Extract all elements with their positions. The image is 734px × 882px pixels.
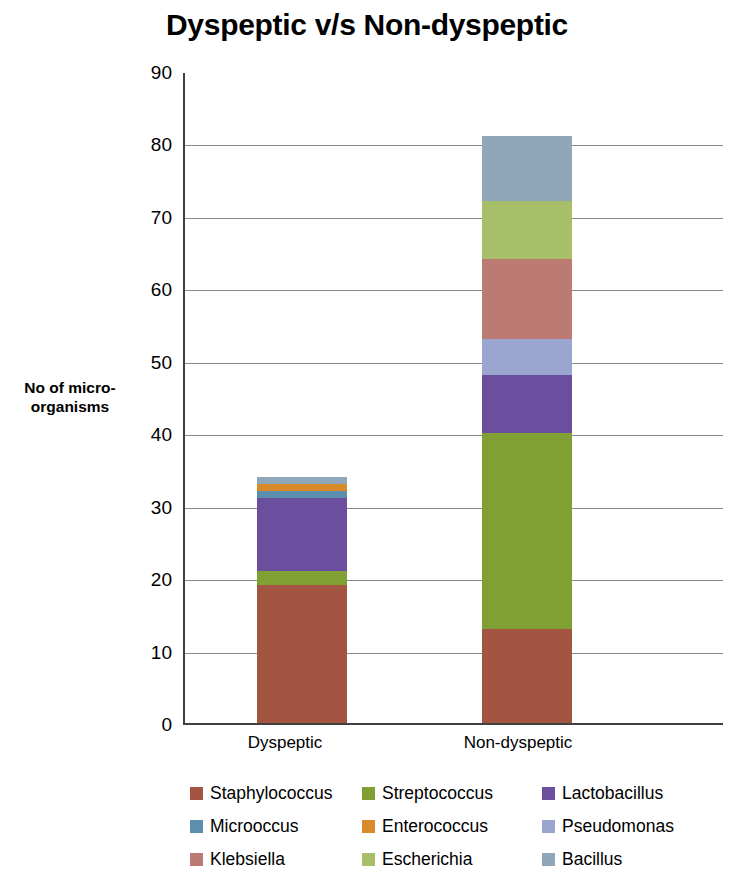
y-axis-tick-label: 50 bbox=[108, 352, 172, 374]
gridline bbox=[185, 363, 723, 364]
bar-segment[interactable] bbox=[257, 477, 347, 484]
legend-row: KlebsiellaEscherichiaBacillus bbox=[190, 843, 734, 876]
gridline bbox=[185, 290, 723, 291]
legend-row: MicrooccusEnterococcusPseudomonas bbox=[190, 810, 734, 843]
legend-item[interactable]: Bacillus bbox=[542, 849, 722, 870]
x-axis-label-non-dyspeptic: Non-dyspeptic bbox=[418, 733, 618, 753]
legend-label: Lactobacillus bbox=[562, 783, 663, 804]
legend-label: Streptococcus bbox=[382, 783, 493, 804]
legend-label: Staphylococcus bbox=[210, 783, 333, 804]
y-axis-tick-label: 60 bbox=[108, 279, 172, 301]
legend-item[interactable]: Lactobacillus bbox=[542, 783, 722, 804]
legend-item[interactable]: Staphylococcus bbox=[190, 783, 362, 804]
x-axis-label-dyspeptic: Dyspeptic bbox=[195, 733, 375, 753]
y-axis-tick-label: 40 bbox=[108, 424, 172, 446]
legend-swatch-icon bbox=[542, 820, 555, 833]
legend-swatch-icon bbox=[190, 853, 203, 866]
y-axis-tick-label: 80 bbox=[108, 134, 172, 156]
legend-item[interactable]: Microoccus bbox=[190, 816, 362, 837]
y-axis-tick-label: 30 bbox=[108, 497, 172, 519]
bar-segment[interactable] bbox=[482, 629, 572, 723]
bar-segment[interactable] bbox=[482, 136, 572, 201]
legend-label: Bacillus bbox=[562, 849, 622, 870]
legend-swatch-icon bbox=[542, 853, 555, 866]
bar-non-dyspeptic[interactable] bbox=[482, 136, 572, 723]
legend-label: Klebsiella bbox=[210, 849, 285, 870]
legend: StaphylococcusStreptococcusLactobacillus… bbox=[190, 777, 734, 876]
legend-swatch-icon bbox=[362, 853, 375, 866]
y-axis-tick-label: 70 bbox=[108, 207, 172, 229]
bar-segment[interactable] bbox=[257, 484, 347, 491]
bar-segment[interactable] bbox=[257, 585, 347, 723]
plot-area bbox=[183, 73, 723, 725]
y-axis-tick-label: 20 bbox=[108, 569, 172, 591]
bar-segment[interactable] bbox=[482, 259, 572, 339]
bar-segment[interactable] bbox=[482, 375, 572, 433]
gridline bbox=[185, 435, 723, 436]
legend-swatch-icon bbox=[190, 820, 203, 833]
legend-label: Microoccus bbox=[210, 816, 299, 837]
legend-swatch-icon bbox=[362, 787, 375, 800]
bar-dyspeptic[interactable] bbox=[257, 477, 347, 723]
legend-swatch-icon bbox=[542, 787, 555, 800]
bar-segment[interactable] bbox=[257, 491, 347, 498]
y-axis-title-line1: No of micro- bbox=[6, 378, 134, 397]
legend-label: Enterococcus bbox=[382, 816, 488, 837]
legend-item[interactable]: Escherichia bbox=[362, 849, 542, 870]
legend-label: Pseudomonas bbox=[562, 816, 674, 837]
legend-label: Escherichia bbox=[382, 849, 472, 870]
bar-segment[interactable] bbox=[257, 498, 347, 570]
bar-segment[interactable] bbox=[257, 571, 347, 585]
page-title: Dyspeptic v/s Non-dyspeptic bbox=[0, 8, 734, 42]
legend-item[interactable]: Klebsiella bbox=[190, 849, 362, 870]
legend-swatch-icon bbox=[362, 820, 375, 833]
y-axis-title-line2: organisms bbox=[6, 397, 134, 416]
gridline bbox=[185, 145, 723, 146]
bar-segment[interactable] bbox=[482, 201, 572, 259]
legend-item[interactable]: Pseudomonas bbox=[542, 816, 722, 837]
y-axis-title: No of micro- organisms bbox=[6, 378, 134, 416]
gridline bbox=[185, 218, 723, 219]
legend-item[interactable]: Enterococcus bbox=[362, 816, 542, 837]
y-axis-tick-label: 10 bbox=[108, 642, 172, 664]
legend-item[interactable]: Streptococcus bbox=[362, 783, 542, 804]
y-axis-tick-label: 0 bbox=[108, 714, 172, 736]
legend-swatch-icon bbox=[190, 787, 203, 800]
legend-row: StaphylococcusStreptococcusLactobacillus bbox=[190, 777, 734, 810]
bar-segment[interactable] bbox=[482, 339, 572, 375]
y-axis-tick-label: 90 bbox=[108, 62, 172, 84]
bar-segment[interactable] bbox=[482, 433, 572, 629]
